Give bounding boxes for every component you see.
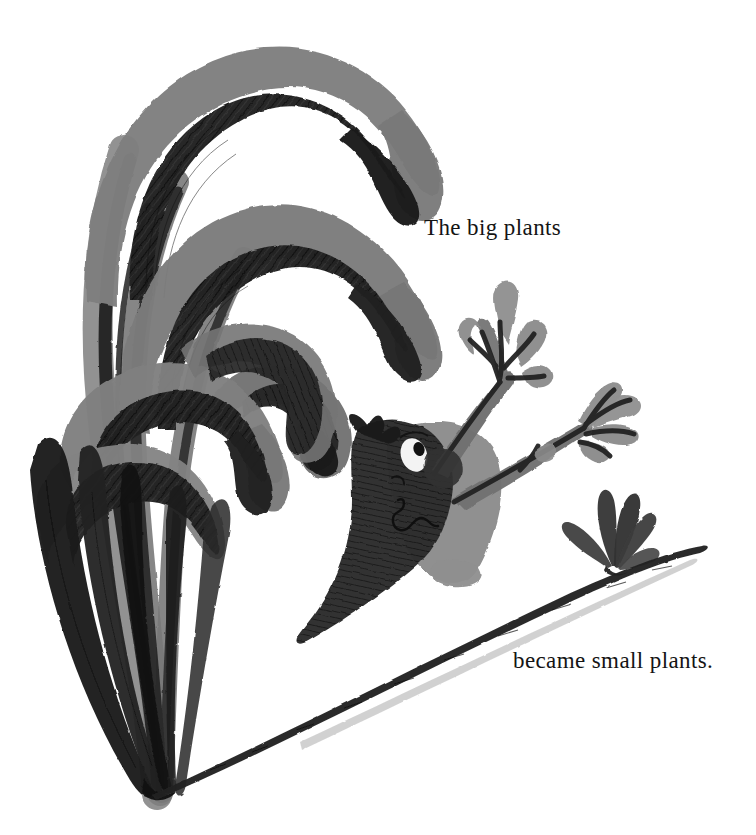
illustration-artwork [0, 0, 756, 835]
caption-bottom: became small plants. [513, 648, 713, 673]
illustration-page: The big plants became small plants. [0, 0, 756, 835]
caption-top: The big plants [424, 215, 561, 240]
